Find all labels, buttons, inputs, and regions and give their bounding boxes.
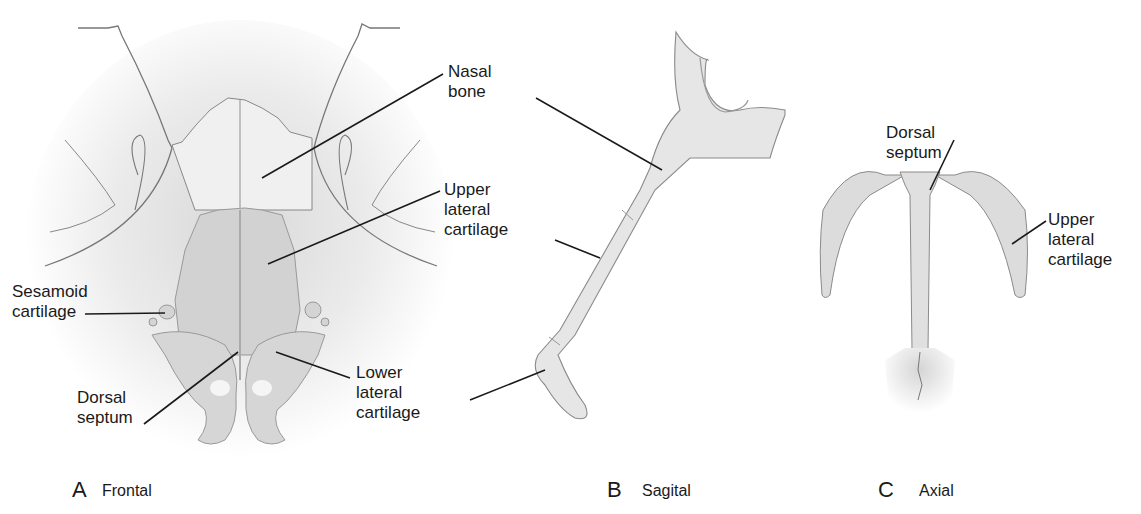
panel-c-letter: C: [878, 478, 894, 502]
anatomy-illustration: [0, 0, 1141, 514]
sagital-leader-lines: [470, 98, 662, 400]
nasal-anatomy-figure: Nasal bone Upper lateral cartilage Sesam…: [0, 0, 1141, 514]
label-dorsal-septum-frontal: Dorsal septum: [77, 388, 133, 428]
label-upper-lateral-cartilage-axial: Upper lateral cartilage: [1048, 210, 1112, 270]
panel-b-name: Sagital: [642, 481, 691, 501]
label-dorsal-septum-axial: Dorsal septum: [886, 123, 942, 163]
panel-a-letter: A: [72, 478, 87, 502]
label-lower-lateral-cartilage: Lower lateral cartilage: [356, 363, 420, 423]
label-upper-lateral-cartilage: Upper lateral cartilage: [444, 180, 508, 240]
label-nasal-bone: Nasal bone: [448, 62, 491, 102]
sagital-view: [470, 32, 785, 419]
panel-c-name: Axial: [919, 481, 954, 501]
label-sesamoid-cartilage: Sesamoid cartilage: [12, 282, 88, 322]
panel-a-name: Frontal: [102, 481, 152, 501]
axial-view: [820, 140, 1046, 420]
panel-b-letter: B: [607, 478, 622, 502]
